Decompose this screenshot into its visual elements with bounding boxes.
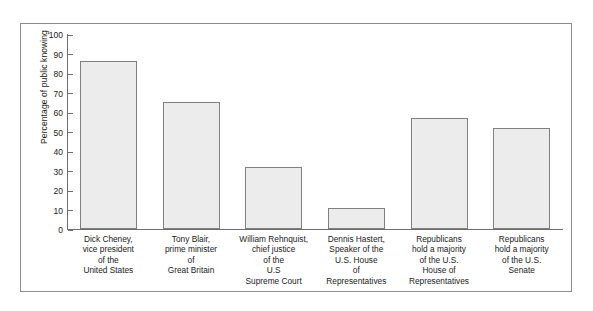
- category-label-line: Tony Blair,: [150, 234, 233, 244]
- y-tick-80: 80: [25, 69, 73, 79]
- x-axis-line: [67, 229, 563, 230]
- bar-2: [163, 102, 220, 229]
- bar-5: [411, 118, 468, 229]
- category-label-4: Dennis Hastert,Speaker of theU.S. Houseo…: [315, 234, 398, 286]
- category-label-6: Republicanshold a majorityof the U.S.Sen…: [480, 234, 563, 276]
- y-tick-label: 90: [33, 50, 63, 60]
- category-label-line: Dick Cheney,: [67, 234, 150, 244]
- category-label-line: House of: [398, 265, 481, 275]
- category-label-line: United States: [67, 265, 150, 275]
- category-label-line: William Rehnquist,: [232, 234, 315, 244]
- y-tick-60: 60: [25, 108, 73, 118]
- y-tick-50: 50: [25, 128, 73, 138]
- bars-group: [67, 34, 563, 229]
- bar-4: [328, 208, 385, 229]
- category-label-line: of the: [232, 255, 315, 265]
- y-tick-10: 10: [25, 206, 73, 216]
- y-tick-label: 80: [33, 69, 63, 79]
- category-label-line: Representatives: [315, 276, 398, 286]
- category-label-line: Speaker of the: [315, 244, 398, 254]
- y-tick-label: 100: [33, 30, 63, 40]
- category-label-line: of the U.S.: [398, 255, 481, 265]
- category-label-line: chief justice: [232, 244, 315, 254]
- category-label-line: of: [315, 265, 398, 275]
- category-label-line: of the U.S.: [480, 255, 563, 265]
- y-tick-0: 0: [25, 225, 73, 235]
- category-label-line: prime minister: [150, 244, 233, 254]
- y-tick-label: 60: [33, 108, 63, 118]
- category-label-line: U.S: [232, 265, 315, 275]
- y-tick-90: 90: [25, 50, 73, 60]
- y-tick-40: 40: [25, 147, 73, 157]
- category-label-line: Dennis Hastert,: [315, 234, 398, 244]
- category-label-line: hold a majority: [480, 244, 563, 254]
- bar-6: [493, 128, 550, 229]
- y-tick-100: 100: [25, 30, 73, 40]
- y-tick-70: 70: [25, 89, 73, 99]
- category-label-line: hold a majority: [398, 244, 481, 254]
- category-label-line: vice president: [67, 244, 150, 254]
- category-label-1: Dick Cheney,vice presidentof theUnited S…: [67, 234, 150, 276]
- category-label-line: of the: [67, 255, 150, 265]
- category-label-line: Great Britain: [150, 265, 233, 275]
- category-label-line: Supreme Court: [232, 276, 315, 286]
- y-tick-20: 20: [25, 186, 73, 196]
- category-label-3: William Rehnquist,chief justiceof theU.S…: [232, 234, 315, 286]
- y-tick-mark: [68, 230, 73, 231]
- y-tick-label: 10: [33, 206, 63, 216]
- chart-figure-frame: Percentage of public knowing 10090807060…: [20, 23, 572, 292]
- category-label-5: Republicanshold a majorityof the U.S.Hou…: [398, 234, 481, 286]
- category-label-line: U.S. House: [315, 255, 398, 265]
- y-tick-label: 0: [33, 225, 63, 235]
- x-axis-category-labels: Dick Cheney,vice presidentof theUnited S…: [67, 234, 563, 292]
- bar-1: [80, 61, 137, 229]
- category-label-line: of: [150, 255, 233, 265]
- bar-3: [245, 167, 302, 229]
- y-tick-label: 20: [33, 186, 63, 196]
- y-tick-label: 50: [33, 128, 63, 138]
- y-tick-label: 30: [33, 167, 63, 177]
- category-label-line: Representatives: [398, 276, 481, 286]
- category-label-line: Republicans: [480, 234, 563, 244]
- category-label-line: Senate: [480, 265, 563, 275]
- y-tick-label: 40: [33, 147, 63, 157]
- plot-area: 1009080706050403020100: [67, 34, 563, 230]
- category-label-line: Republicans: [398, 234, 481, 244]
- y-tick-label: 70: [33, 89, 63, 99]
- category-label-2: Tony Blair,prime ministerofGreat Britain: [150, 234, 233, 276]
- y-tick-30: 30: [25, 167, 73, 177]
